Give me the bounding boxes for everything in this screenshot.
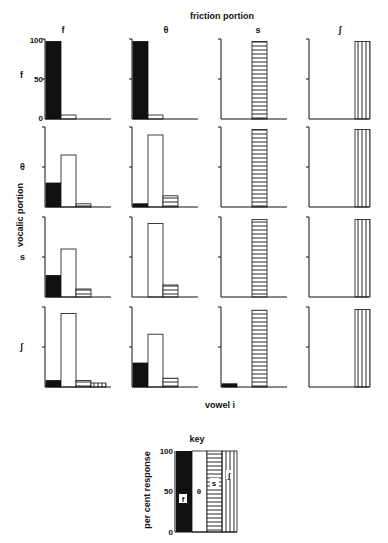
bar-f: [133, 363, 148, 387]
panel-r1-c3: [218, 39, 287, 119]
panel-r2-c3: [218, 127, 287, 207]
bar-f: [46, 275, 61, 297]
bar-s: [163, 196, 178, 207]
key-label-esh: ʃ: [227, 471, 231, 480]
bar-esh: [355, 219, 370, 297]
bar-theta: [61, 155, 76, 207]
bar-theta: [148, 334, 163, 387]
bar-s: [252, 129, 267, 207]
bar-f: [133, 41, 148, 119]
bar-theta: [61, 249, 76, 297]
panel-r3-c2: [129, 217, 198, 297]
panel-r1-c4: [306, 39, 370, 119]
bar-s: [252, 310, 267, 387]
key-title: key: [189, 434, 204, 444]
key-bar-f: [176, 451, 192, 532]
panel-r2-c4: [306, 127, 370, 207]
key-label-f: f: [182, 495, 185, 504]
key-label-s: s: [212, 479, 217, 488]
bar-s: [76, 289, 91, 297]
key-ytick-100: 100: [160, 447, 174, 456]
bar-esh: [355, 129, 370, 207]
figure: friction portion f θ s ʃ f θ s ʃ vocalic…: [0, 0, 388, 543]
bar-esh: [355, 41, 370, 119]
col-label-esh: ʃ: [338, 25, 343, 35]
key-ytick-50: 50: [164, 487, 173, 496]
panel-r4-c4: [306, 307, 370, 387]
bar-s: [76, 381, 91, 387]
bar-theta: [61, 115, 76, 119]
panel-r2-c1: [42, 127, 111, 207]
bar-s: [252, 41, 267, 119]
row-label-esh: ʃ: [19, 342, 24, 352]
bar-theta: [148, 223, 163, 297]
bar-esh: [355, 309, 370, 387]
ytick-0: 0: [39, 114, 44, 123]
panel-r3-c4: [306, 217, 370, 297]
panel-grid: [42, 39, 370, 387]
bar-theta: [148, 135, 163, 207]
key-bar-s: [207, 451, 222, 532]
col-label-theta: θ: [164, 25, 169, 35]
bar-esh: [91, 383, 106, 387]
key-y-label: per cent response: [142, 451, 152, 529]
panel-r3-c3: [218, 217, 287, 297]
panel-r3-c1: [42, 217, 111, 297]
chart-title: friction portion: [190, 11, 254, 21]
panel-r1-c2: [129, 39, 198, 119]
y-axis-label: vocalic portion: [15, 183, 25, 247]
col-label-s: s: [255, 25, 260, 35]
bar-f: [46, 41, 61, 119]
row-label-f: f: [20, 70, 24, 80]
bar-f: [46, 183, 61, 207]
panel-r1-c1: [42, 39, 111, 119]
panel-r4-c1: [42, 307, 111, 387]
panel-r2-c2: [129, 127, 198, 207]
panel-r4-c2: [129, 307, 198, 387]
row-label-theta: θ: [20, 162, 25, 172]
bar-theta: [61, 313, 76, 387]
bar-s: [252, 219, 267, 297]
bar-s: [163, 378, 178, 387]
col-label-f: f: [62, 25, 66, 35]
key-legend: key per cent response 100 50 0 f θ s ʃ: [142, 434, 237, 537]
x-axis-label: vowel i: [205, 400, 235, 410]
bar-s: [163, 285, 178, 297]
bar-f: [46, 381, 61, 387]
ytick-100: 100: [30, 36, 44, 45]
bar-theta: [148, 115, 163, 119]
row-label-s: s: [20, 252, 25, 262]
key-ytick-0: 0: [169, 528, 174, 537]
panel-r4-c3: [218, 307, 287, 387]
key-label-theta: θ: [197, 487, 201, 496]
key-bar-esh: [222, 451, 237, 532]
